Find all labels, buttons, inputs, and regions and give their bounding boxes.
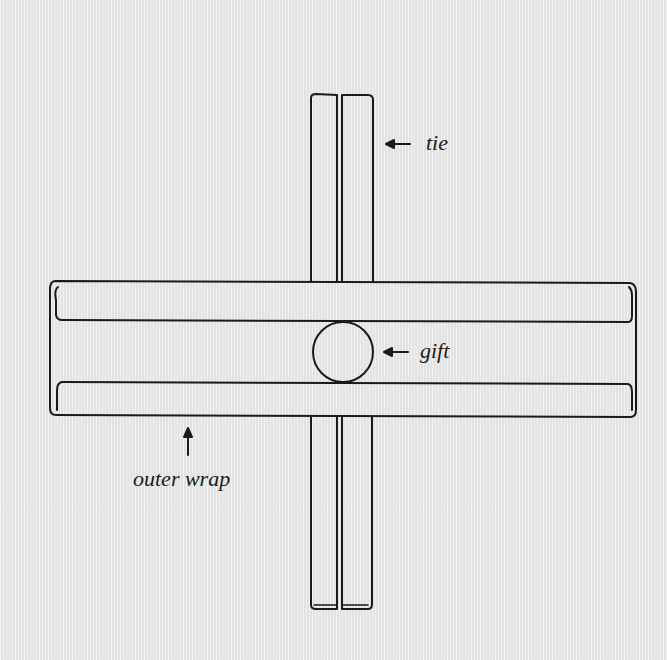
gift-arrow-icon (384, 348, 408, 356)
gift-circle (313, 322, 373, 382)
gift-wrap-diagram (0, 0, 667, 660)
tie-label: tie (426, 130, 448, 156)
outer-wrap-label: outer wrap (133, 466, 230, 492)
outer-wrap-arrow-icon (184, 428, 192, 455)
outer-wrap-band (50, 281, 636, 417)
gift-label: gift (420, 338, 449, 364)
tie-band (311, 94, 373, 609)
tie-arrow-icon (386, 140, 410, 148)
